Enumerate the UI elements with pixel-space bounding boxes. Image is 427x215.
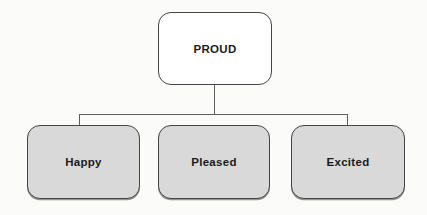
connector-crossbar-line: [79, 114, 348, 115]
node-proud: PROUD: [158, 12, 272, 85]
node-happy: Happy: [27, 125, 140, 199]
node-pleased: Pleased: [158, 125, 270, 199]
connector-right-stub-line: [347, 114, 348, 125]
node-proud-label: PROUD: [193, 42, 236, 54]
connector-trunk-line: [214, 85, 215, 115]
node-pleased-label: Pleased: [191, 156, 237, 168]
node-happy-label: Happy: [65, 156, 102, 168]
diagram-canvas: PROUD Happy Pleased Excited: [0, 0, 427, 215]
node-excited: Excited: [291, 125, 405, 199]
node-excited-label: Excited: [326, 156, 369, 168]
connector-left-stub-line: [79, 114, 80, 125]
